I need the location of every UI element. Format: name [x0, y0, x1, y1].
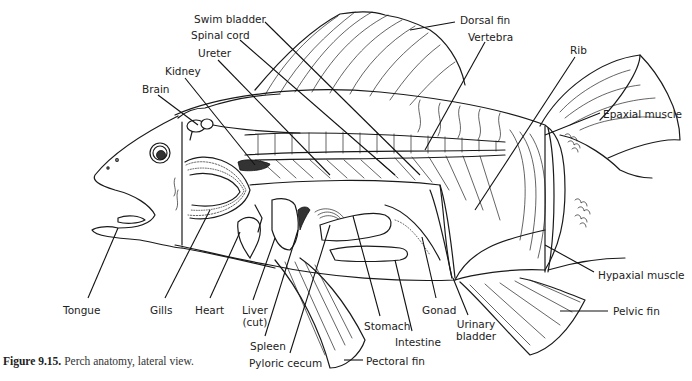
label-pectoral-fin: Pectoral fin — [366, 355, 425, 367]
label-spinal-cord: Spinal cord — [191, 29, 250, 41]
label-hypaxial-muscle: Hypaxial muscle — [598, 269, 685, 281]
label-text: Kidney — [165, 65, 201, 77]
label-stomach: Stomach — [364, 320, 410, 332]
fish-illustration — [0, 0, 692, 381]
label-text: Intestine — [395, 336, 441, 348]
label-text: Pectoral fin — [366, 355, 425, 367]
label-heart: Heart — [195, 304, 224, 316]
perch-anatomy-diagram: Swim bladderSpinal cordUreterKidneyBrain… — [0, 0, 692, 381]
leader-line-ureter — [218, 60, 330, 175]
label-text: Tongue — [63, 304, 101, 316]
label-intestine: Intestine — [395, 336, 441, 348]
label-text: Stomach — [364, 320, 410, 332]
label-text: Urinary — [456, 318, 496, 330]
pelvic-fin — [460, 278, 585, 355]
leader-line-liver-cut — [253, 238, 275, 300]
label-urinary-bladder: Urinarybladder — [456, 318, 496, 342]
label-rib: Rib — [570, 44, 587, 56]
label-epaxial-muscle: Epaxial muscle — [603, 108, 682, 120]
vertebral-column — [245, 132, 505, 160]
label-text: Liver — [242, 304, 268, 316]
label-text: Vertebra — [468, 31, 513, 43]
gonad — [385, 205, 440, 260]
caudal-fin — [540, 55, 680, 158]
label-dorsal-fin: Dorsal fin — [460, 14, 510, 26]
figure-caption: Figure 9.15. Perch anatomy, lateral view… — [3, 355, 194, 367]
label-text: Dorsal fin — [460, 14, 510, 26]
label-text: Gonad — [422, 304, 456, 316]
label-text: (cut) — [242, 316, 268, 328]
label-pelvic-fin: Pelvic fin — [613, 305, 660, 317]
label-swim-bladder: Swim bladder — [194, 13, 266, 25]
label-text: Heart — [195, 304, 224, 316]
leader-line-dorsal-fin — [410, 22, 455, 30]
label-kidney: Kidney — [165, 65, 201, 77]
leader-line-hypaxial-muscle — [545, 245, 594, 272]
label-text: Epaxial muscle — [603, 108, 682, 120]
leader-line-epaxial-muscle — [545, 113, 600, 135]
leader-line-heart — [210, 232, 240, 298]
label-text: Spinal cord — [191, 29, 250, 41]
label-text: Swim bladder — [194, 13, 266, 25]
urinary-bladder — [430, 190, 452, 278]
heart — [238, 217, 261, 258]
label-text: Pyloric cecum — [249, 357, 322, 369]
label-text: bladder — [456, 330, 496, 342]
caption-number: Figure 9.15. — [3, 355, 61, 367]
label-text: Hypaxial muscle — [598, 269, 685, 281]
leader-line-tongue — [88, 228, 118, 298]
label-gills: Gills — [150, 304, 172, 316]
brain — [187, 119, 300, 140]
caption-text: Perch anatomy, lateral view. — [64, 355, 194, 367]
leader-line-gills — [165, 210, 210, 298]
leader-line-gonad — [422, 237, 436, 298]
visceral-organs — [238, 180, 455, 278]
intestine — [330, 246, 408, 261]
kidney — [238, 160, 270, 171]
scales — [565, 134, 590, 227]
fish-head — [92, 116, 182, 248]
label-pyloric-cecum: Pyloric cecum — [249, 357, 322, 369]
label-text: Spleen — [250, 340, 286, 352]
spleen — [298, 207, 310, 230]
label-tongue: Tongue — [63, 304, 101, 316]
label-text: Ureter — [198, 47, 231, 59]
label-spleen: Spleen — [250, 340, 286, 352]
label-text: Rib — [570, 44, 587, 56]
label-gonad: Gonad — [422, 304, 456, 316]
label-vertebra: Vertebra — [468, 31, 513, 43]
label-text: Brain — [142, 83, 170, 95]
label-text: Gills — [150, 304, 172, 316]
fish-body — [175, 90, 565, 281]
pectoral-fin — [275, 258, 365, 368]
label-brain: Brain — [142, 83, 170, 95]
label-ureter: Ureter — [198, 47, 231, 59]
label-liver-cut: Liver(cut) — [242, 304, 268, 328]
label-text: Pelvic fin — [613, 305, 660, 317]
